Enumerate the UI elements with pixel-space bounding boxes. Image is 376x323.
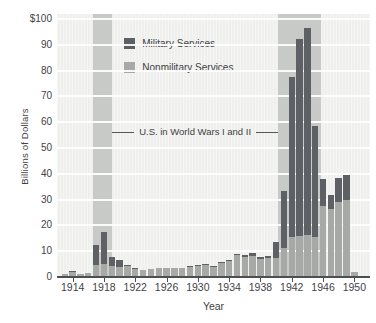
- bar-1934: [226, 260, 232, 277]
- bar-segment-nonmilitary: [343, 200, 349, 276]
- bar-1946: [320, 179, 326, 276]
- bar-1913: [62, 274, 68, 276]
- bar-segment-military: [304, 28, 310, 234]
- bar-1935: [234, 254, 240, 276]
- bar-1949: [343, 175, 349, 276]
- war-annotation: U.S. in World Wars I and II: [112, 128, 279, 138]
- bar-segment-nonmilitary: [156, 268, 162, 276]
- annotation-line-left: [112, 132, 134, 133]
- bar-1945: [312, 126, 318, 276]
- x-tick-label-1926: 1926: [150, 281, 184, 293]
- bar-1939: [265, 256, 271, 276]
- y-tick-label-100: $100: [18, 13, 52, 24]
- bar-1936: [242, 255, 248, 276]
- annotation-text: U.S. in World Wars I and II: [134, 126, 256, 137]
- bar-segment-nonmilitary: [195, 266, 201, 276]
- x-tick-label-1950: 1950: [337, 281, 371, 293]
- y-tick-label-80: 80: [18, 65, 52, 76]
- gridline-50: [57, 147, 370, 149]
- bar-1944: [304, 28, 310, 276]
- bar-segment-military: [116, 260, 122, 268]
- bar-segment-nonmilitary: [226, 261, 232, 276]
- bar-1918: [101, 232, 107, 276]
- bar-1929: [187, 266, 193, 276]
- bar-segment-nonmilitary: [179, 268, 185, 276]
- x-tick-label-1922: 1922: [118, 281, 152, 293]
- bar-segment-nonmilitary: [132, 269, 138, 276]
- bar-segment-nonmilitary: [218, 263, 224, 276]
- y-tick-label-0: 0: [18, 271, 52, 282]
- bar-segment-nonmilitary: [249, 256, 255, 276]
- bar-1950: [351, 272, 357, 276]
- bar-1921: [124, 265, 130, 276]
- bar-segment-nonmilitary: [289, 237, 295, 276]
- bar-1919: [109, 257, 115, 276]
- bar-segment-nonmilitary: [62, 274, 68, 276]
- bar-segment-nonmilitary: [202, 265, 208, 276]
- bar-1927: [171, 268, 177, 276]
- y-tick-label-40: 40: [18, 168, 52, 179]
- bar-segment-nonmilitary: [335, 202, 341, 276]
- bar-1930: [195, 265, 201, 276]
- bar-1923: [140, 270, 146, 276]
- plot-area: Military Services Nonmilitary Services U…: [57, 14, 370, 277]
- bar-segment-nonmilitary: [351, 272, 357, 276]
- x-tick-label-1930: 1930: [181, 281, 215, 293]
- gridline-70: [57, 95, 370, 97]
- bar-segment-military: [343, 175, 349, 200]
- bar-1920: [116, 260, 122, 277]
- bar-1914: [69, 271, 75, 276]
- bar-segment-nonmilitary: [69, 272, 75, 276]
- bar-1947: [328, 195, 334, 276]
- bar-segment-nonmilitary: [171, 268, 177, 276]
- y-tick-label-70: 70: [18, 90, 52, 101]
- gridline-80: [57, 70, 370, 72]
- bar-segment-nonmilitary: [312, 237, 318, 276]
- x-tick-label-1914: 1914: [56, 281, 90, 293]
- x-tick-label-1918: 1918: [87, 281, 121, 293]
- x-axis-title: Year: [57, 300, 370, 312]
- bar-1937: [249, 253, 255, 276]
- bar-segment-nonmilitary: [140, 270, 146, 276]
- bar-segment-nonmilitary: [163, 268, 169, 276]
- bar-segment-military: [328, 195, 334, 209]
- bar-segment-nonmilitary: [320, 206, 326, 276]
- y-tick-label-50: 50: [18, 142, 52, 153]
- x-tick-label-1938: 1938: [243, 281, 277, 293]
- bar-segment-nonmilitary: [242, 257, 248, 276]
- bar-segment-nonmilitary: [109, 266, 115, 276]
- bar-segment-military: [273, 242, 279, 257]
- bar-segment-military: [109, 257, 115, 266]
- bar-1943: [296, 39, 302, 276]
- gridline-60: [57, 121, 370, 123]
- bar-1916: [85, 273, 91, 276]
- bar-segment-military: [281, 191, 287, 248]
- x-tick-label-1946: 1946: [306, 281, 340, 293]
- bar-1931: [202, 264, 208, 276]
- bar-segment-nonmilitary: [296, 236, 302, 276]
- y-tick-label-90: 90: [18, 39, 52, 50]
- bar-1926: [163, 268, 169, 276]
- bar-segment-nonmilitary: [273, 258, 279, 276]
- bar-segment-nonmilitary: [93, 265, 99, 276]
- bar-1928: [179, 268, 185, 276]
- bar-1948: [335, 178, 341, 276]
- y-tick-label-30: 30: [18, 194, 52, 205]
- y-tick-label-60: 60: [18, 116, 52, 127]
- y-tick-label-10: 10: [18, 245, 52, 256]
- bar-1938: [257, 257, 263, 276]
- bar-segment-nonmilitary: [328, 209, 334, 276]
- bar-1932: [210, 266, 216, 276]
- bar-segment-nonmilitary: [281, 248, 287, 276]
- chart-figure: Billions of Dollars Military Services No…: [0, 0, 376, 323]
- gridline-100: [57, 18, 370, 20]
- bar-1925: [156, 268, 162, 276]
- bar-segment-nonmilitary: [85, 273, 91, 276]
- bar-1917: [93, 245, 99, 276]
- bar-1941: [281, 191, 287, 276]
- bar-segment-nonmilitary: [116, 267, 122, 276]
- bar-1922: [132, 268, 138, 276]
- gridline-40: [57, 173, 370, 175]
- bar-segment-nonmilitary: [187, 267, 193, 276]
- bar-1933: [218, 262, 224, 276]
